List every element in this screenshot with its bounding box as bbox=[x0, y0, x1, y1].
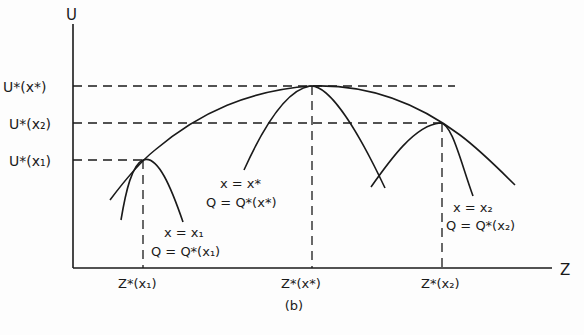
figure-envelope-diagram: U Z U*(x*) U*(x₂) U*(x₁) Z*(x₁) Z*(x*) Z… bbox=[0, 0, 584, 335]
y-tick-u-x1: U*(x₁) bbox=[9, 153, 51, 169]
y-tick-u-xstar: U*(x*) bbox=[3, 79, 46, 95]
curve-label-xstar-line1: x = x* bbox=[220, 176, 262, 191]
curve-label-x2-line1: x = x₂ bbox=[453, 200, 493, 215]
curve-label-x1-line1: x = x₁ bbox=[164, 225, 204, 240]
x-tick-z-x1: Z*(x₁) bbox=[118, 276, 156, 291]
x-tick-z-x2: Z*(x₂) bbox=[421, 276, 459, 291]
y-axis-label: U bbox=[66, 6, 77, 24]
y-tick-u-x2: U*(x₂) bbox=[9, 116, 51, 132]
curve-label-xstar-line2: Q = Q*(x*) bbox=[206, 195, 276, 210]
x-tick-z-xstar: Z*(x*) bbox=[281, 276, 321, 291]
curve-label-x1-line2: Q = Q*(x₁) bbox=[151, 244, 220, 259]
curve-xstar bbox=[244, 86, 385, 188]
x-axis-label: Z bbox=[560, 261, 570, 279]
curve-label-x2-line2: Q = Q*(x₂) bbox=[446, 218, 515, 233]
figure-caption: (b) bbox=[285, 298, 303, 313]
curve-x1 bbox=[121, 159, 183, 222]
